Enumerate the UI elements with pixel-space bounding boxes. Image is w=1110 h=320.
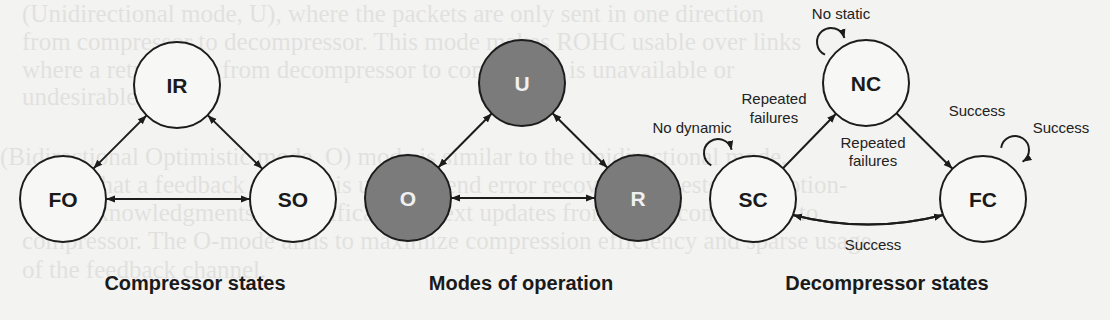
transition-label: Repeated [840, 134, 905, 151]
self-loop-fc [1001, 136, 1029, 162]
rohc-state-diagram: IRFOSOUORNCSCFC Compressor statesModes o… [0, 0, 1110, 320]
state-node-u: U [479, 40, 565, 126]
edge-ir-to-so [208, 115, 263, 169]
state-label: SC [738, 188, 767, 211]
state-node-o: O [365, 155, 451, 241]
edge-sc-to-fc [793, 215, 943, 225]
edge-u-to-r [553, 113, 608, 167]
panel-title-modes-of-operation: Modes of operation [429, 272, 613, 294]
panel-title-compressor-states: Compressor states [104, 272, 285, 294]
state-label: R [630, 187, 645, 210]
transition-label: Repeated [741, 90, 806, 107]
state-label: NC [851, 72, 881, 95]
self-loop-sc [704, 139, 732, 165]
state-label: O [400, 187, 416, 210]
state-label: FC [969, 188, 997, 211]
state-node-so: SO [250, 156, 336, 242]
panel-title-decompressor-states: Decompressor states [785, 272, 988, 294]
transition-label: Success [1033, 119, 1090, 136]
edge-ir-to-fo [93, 115, 146, 168]
transition-label: No dynamic [652, 119, 732, 136]
state-label: SO [278, 188, 308, 211]
transition-label: failures [849, 152, 897, 169]
state-node-fc: FC [940, 156, 1026, 242]
transition-label: Success [949, 102, 1006, 119]
transition-label: No static [812, 5, 871, 22]
state-node-nc: NC [823, 40, 909, 126]
state-node-sc: SC [710, 156, 796, 242]
transition-label: Success [845, 236, 902, 253]
edge-u-to-o [438, 114, 491, 168]
state-label: U [514, 72, 529, 95]
state-node-r: R [595, 155, 681, 241]
state-node-fo: FO [20, 156, 106, 242]
transition-label: failures [750, 109, 798, 126]
state-node-ir: IR [134, 42, 220, 128]
state-label: FO [48, 188, 77, 211]
state-label: IR [167, 74, 188, 97]
